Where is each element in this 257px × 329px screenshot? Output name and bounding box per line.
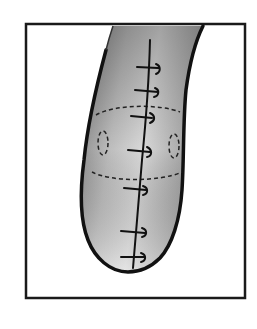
illustration <box>0 0 257 329</box>
